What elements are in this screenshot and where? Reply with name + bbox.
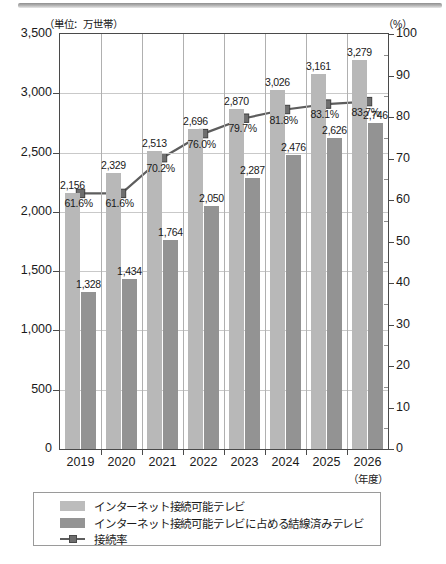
x-axis-tick — [347, 449, 348, 455]
year-separator — [101, 34, 102, 449]
y-axis-left-tick — [53, 330, 59, 331]
year-separator — [183, 34, 184, 449]
y-axis-right-tick — [388, 408, 394, 409]
connection-rate-label: 83.7% — [352, 106, 380, 118]
connection-rate-label: 79.7% — [229, 122, 257, 134]
bar-connected-tv — [327, 138, 342, 449]
bar-value-label-internet-capable-tv: 2,696 — [174, 115, 218, 127]
y-axis-left-tick — [53, 271, 59, 272]
bar-internet-capable-tv — [106, 173, 121, 449]
y-axis-right-minor-tick — [384, 304, 388, 305]
connection-rate-label: 70.2% — [147, 162, 175, 174]
legend-label-1: インターネット接続可能テレビに占める結線済みテレビ — [94, 515, 364, 531]
chart-root: （単位：万世帯） （%） 05001,0001,5002,0002,5003,0… — [0, 0, 446, 564]
y-axis-right-tick — [388, 34, 394, 35]
y-axis-right-tick-label: 70 — [396, 151, 444, 165]
connection-rate-label: 76.0% — [188, 138, 216, 150]
y-axis-right-tick-label: 50 — [396, 234, 444, 248]
y-axis-right-tick-label: 90 — [396, 68, 444, 82]
y-axis-left-tick-label: 0 — [0, 441, 52, 455]
y-axis-right-tick-label: 10 — [396, 400, 444, 414]
connection-rate-label: 83.1% — [311, 108, 339, 120]
bar-value-label-internet-capable-tv: 3,026 — [256, 76, 300, 88]
y-axis-left-tick-label: 2,000 — [0, 204, 52, 218]
bar-value-label-connected-tv: 1,764 — [149, 226, 193, 238]
y-axis-right-tick — [388, 200, 394, 201]
y-axis-left-tick-label: 3,000 — [0, 85, 52, 99]
year-separator — [142, 34, 143, 449]
bar-value-label-connected-tv: 2,050 — [190, 192, 234, 204]
y-axis-right-tick-label: 20 — [396, 358, 444, 372]
top-divider-rule — [18, 3, 442, 8]
legend-item-connected-tv: インターネット接続可能テレビに占める結線済みテレビ — [60, 515, 364, 530]
x-axis-tick — [183, 449, 184, 455]
legend-item-internet-capable-tv: インターネット接続可能テレビ — [60, 498, 245, 513]
bar-internet-capable-tv — [229, 109, 244, 449]
y-axis-right-tick-label: 60 — [396, 192, 444, 206]
y-axis-right-tick — [388, 242, 394, 243]
y-axis-right-minor-tick — [384, 428, 388, 429]
y-axis-right-tick — [388, 76, 394, 77]
legend-item-connection-rate: 接続率 — [60, 531, 126, 546]
y-axis-left-tick — [53, 93, 59, 94]
y-axis-left-tick-label: 1,500 — [0, 263, 52, 277]
legend-label-0: インターネット接続可能テレビ — [94, 498, 245, 514]
y-axis-right-minor-tick — [384, 138, 388, 139]
y-axis-right-minor-tick — [384, 387, 388, 388]
bar-connected-tv — [122, 279, 137, 449]
bar-value-label-internet-capable-tv: 2,329 — [92, 159, 136, 171]
bar-connected-tv — [81, 292, 96, 449]
y-axis-left-tick-label: 3,500 — [0, 26, 52, 40]
y-axis-right-tick-label: 40 — [396, 275, 444, 289]
y-axis-right-tick — [388, 366, 394, 367]
x-axis-tick — [306, 449, 307, 455]
legend-swatch-line-marker — [60, 534, 85, 544]
bar-internet-capable-tv — [188, 129, 203, 449]
bar-value-label-connected-tv: 2,626 — [313, 124, 357, 136]
bar-value-label-internet-capable-tv: 3,279 — [338, 46, 382, 58]
bar-value-label-connected-tv: 1,434 — [108, 265, 152, 277]
y-axis-right-minor-tick — [384, 345, 388, 346]
y-axis-right-tick-label: 100 — [396, 26, 444, 40]
y-axis-right-tick — [388, 159, 394, 160]
bar-value-label-internet-capable-tv: 2,870 — [215, 95, 259, 107]
bar-value-label-internet-capable-tv: 2,513 — [133, 137, 177, 149]
y-axis-left-tick — [53, 212, 59, 213]
left-axis-unit-label: （単位：万世帯） — [44, 16, 122, 31]
bar-connected-tv — [245, 178, 260, 449]
legend-label-2: 接続率 — [94, 531, 126, 547]
year-separator — [347, 34, 348, 449]
y-axis-right-minor-tick — [384, 262, 388, 263]
connection-rate-label: 81.8% — [270, 114, 298, 126]
y-axis-left-tick-label: 2,500 — [0, 145, 52, 159]
bar-connected-tv — [286, 155, 301, 449]
year-separator — [265, 34, 266, 449]
bar-internet-capable-tv — [65, 193, 80, 449]
y-axis-right-tick — [388, 325, 394, 326]
y-axis-right-minor-tick — [384, 55, 388, 56]
x-axis-tick — [224, 449, 225, 455]
y-axis-right-tick-label: 80 — [396, 109, 444, 123]
y-axis-left-tick — [53, 153, 59, 154]
bar-connected-tv — [204, 206, 219, 449]
y-axis-right-minor-tick — [384, 96, 388, 97]
x-axis-tick — [265, 449, 266, 455]
bar-value-label-connected-tv: 2,476 — [272, 141, 316, 153]
legend-swatch-light — [60, 501, 85, 511]
bar-connected-tv — [163, 240, 178, 449]
bar-internet-capable-tv — [147, 151, 162, 449]
bar-value-label-connected-tv: 1,328 — [67, 278, 111, 290]
y-axis-right-minor-tick — [384, 179, 388, 180]
y-axis-right-minor-tick — [384, 221, 388, 222]
legend-swatch-dark — [60, 518, 85, 528]
bar-value-label-internet-capable-tv: 2,156 — [51, 179, 95, 191]
y-axis-left-tick-label: 500 — [0, 382, 52, 396]
y-axis-right-tick — [388, 283, 394, 284]
x-axis-tick — [101, 449, 102, 455]
x-axis-unit-label: （年度） — [338, 471, 398, 486]
connection-rate-label: 61.6% — [106, 197, 134, 209]
bar-value-label-internet-capable-tv: 3,161 — [297, 60, 341, 72]
y-axis-right-tick-label: 30 — [396, 317, 444, 331]
chart-legend: インターネット接続可能テレビ インターネット接続可能テレビに占める結線済みテレビ… — [33, 492, 381, 546]
bar-value-label-connected-tv: 2,287 — [231, 164, 275, 176]
